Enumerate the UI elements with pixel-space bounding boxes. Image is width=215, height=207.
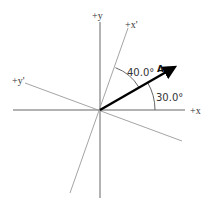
angle-label-30: 30.0° (156, 92, 183, 103)
vector-a-label: A (157, 64, 164, 74)
x-axis-label: +x (190, 105, 201, 116)
angle-arc-30 (148, 83, 155, 111)
coordinate-diagram: +y +x' +y' +x A 40.0° 30.0° (0, 0, 215, 207)
x-prime-axis-label: +x' (125, 19, 138, 30)
angle-label-40: 40.0° (127, 67, 154, 78)
y-prime-axis-label: +y' (12, 75, 25, 86)
y-axis-label: +y (92, 10, 103, 21)
